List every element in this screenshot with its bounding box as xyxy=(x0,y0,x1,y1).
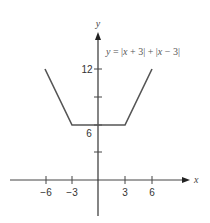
graph-canvas: −6 −3 3 6 6 12 x y y = |x + 3| + |x − 3| xyxy=(0,0,210,223)
x-tick-label-m6: −6 xyxy=(40,187,52,198)
x-tick-label-3: 3 xyxy=(122,187,128,198)
eq-part1: = | xyxy=(110,46,123,57)
eq-part3: − 3| xyxy=(162,46,180,57)
eq-part2: + 3| + | xyxy=(128,46,158,57)
y-tick-label-12: 12 xyxy=(81,64,93,75)
y-axis-label: y xyxy=(95,18,101,29)
x-axis-arrow-icon xyxy=(182,177,190,183)
y-axis-arrow-icon xyxy=(95,32,101,40)
x-tick-label-6: 6 xyxy=(149,187,155,198)
y-tick-label-6: 6 xyxy=(86,128,92,139)
x-tick-label-m3: −3 xyxy=(66,187,78,198)
equation-annotation: y = |x + 3| + |x − 3| xyxy=(105,46,180,57)
x-axis-label: x xyxy=(193,174,199,185)
